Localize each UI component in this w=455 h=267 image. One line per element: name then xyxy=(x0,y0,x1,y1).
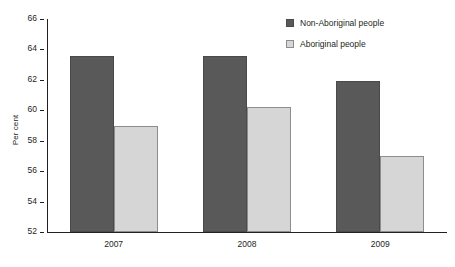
x-axis-label: 2007 xyxy=(84,239,144,249)
y-tick-mark xyxy=(40,80,44,81)
x-axis-label: 2009 xyxy=(350,239,410,249)
y-tick-label: 52 xyxy=(28,226,37,236)
y-axis-line xyxy=(47,19,48,233)
y-tick-mark xyxy=(40,171,44,172)
y-tick-mark xyxy=(40,141,44,142)
y-tick-mark xyxy=(40,19,44,20)
bar xyxy=(114,126,158,233)
y-tick-label: 60 xyxy=(28,104,37,114)
bar xyxy=(247,107,291,232)
bar xyxy=(380,156,424,232)
x-axis-label: 2008 xyxy=(217,239,277,249)
y-tick-label: 62 xyxy=(28,74,37,84)
y-tick-mark xyxy=(40,202,44,203)
chart-legend: Non-Aboriginal peopleAboriginal people xyxy=(286,16,384,58)
y-tick-label: 54 xyxy=(28,196,37,206)
legend-label: Aboriginal people xyxy=(300,39,366,49)
y-tick-label: 56 xyxy=(28,165,37,175)
legend-swatch-dark xyxy=(286,19,294,27)
legend-item: Non-Aboriginal people xyxy=(286,16,384,30)
bar xyxy=(336,81,380,232)
bar xyxy=(70,56,114,232)
y-tick-mark xyxy=(40,110,44,111)
bar xyxy=(203,56,247,232)
legend-label: Non-Aboriginal people xyxy=(300,18,384,28)
y-tick-mark xyxy=(40,49,44,50)
legend-item: Aboriginal people xyxy=(286,37,384,51)
y-tick-label: 64 xyxy=(28,43,37,53)
x-axis-line xyxy=(47,232,447,233)
y-axis-title: Per cent xyxy=(11,95,20,165)
y-tick-label: 66 xyxy=(28,13,37,23)
y-tick-mark xyxy=(40,232,44,233)
bar-chart: Per cent 5254565860626466 200720082009 N… xyxy=(0,0,455,267)
legend-swatch-light xyxy=(286,40,294,48)
y-tick-label: 58 xyxy=(28,135,37,145)
